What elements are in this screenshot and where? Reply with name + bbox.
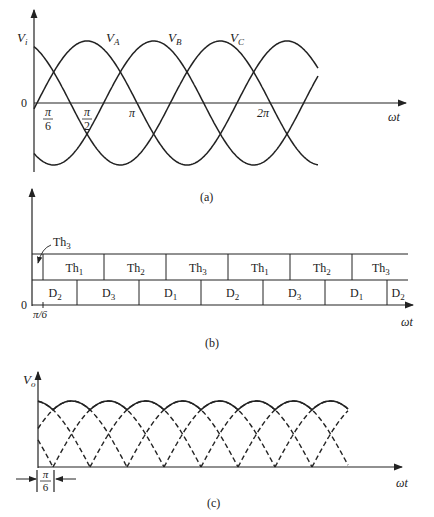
panel-a-x-label: ωt [388, 110, 400, 124]
tick-2pi: 2π [257, 106, 270, 120]
panel-a-origin-label: 0 [21, 96, 27, 110]
svg-text:6: 6 [45, 119, 51, 133]
phase-arc-dashed [312, 411, 348, 467]
phase-arc-dashed [38, 401, 90, 467]
diode-cell: D2 [49, 286, 62, 302]
caption-a: (a) [200, 190, 213, 204]
svg-text:6: 6 [43, 481, 49, 493]
panel-c-x-label: ωt [396, 476, 408, 490]
phase-arc-dashed [275, 401, 348, 467]
caption-c: (c) [207, 496, 220, 510]
label-vb: VB [168, 30, 182, 47]
panel-b-origin-label: 0 [21, 298, 27, 312]
pi-over-6-offset-annotation: π 6 [16, 468, 76, 493]
panel-a-y-label: Vi [17, 30, 28, 47]
panel-b-tick-pi-over-6: π/6 [33, 308, 48, 320]
phase-arc-dashed [38, 401, 127, 467]
diode-cell: D2 [392, 286, 405, 302]
label-va: VA [106, 30, 120, 47]
thyristor-cell: Th2 [127, 261, 145, 277]
svg-text:2: 2 [84, 119, 90, 133]
svg-text:Th3: Th3 [53, 235, 71, 251]
panel-c-output-voltage: Vo ωt π 6 (c) [16, 372, 408, 510]
tick-pi: π [129, 106, 136, 120]
diode-cell: D3 [288, 286, 302, 302]
thyristor-cell: Th3 [372, 261, 390, 277]
panel-c-y-label: Vo [23, 372, 36, 389]
svg-text:π: π [45, 105, 52, 119]
diode-cell: D3 [102, 286, 116, 302]
svg-text:π: π [43, 468, 49, 480]
panel-a-phase-voltages: Vi 0 ωt π 6 π 2 π 2π VA VB VC (a) [17, 10, 406, 204]
panel-c-waveforms [38, 401, 348, 467]
diode-cell: D1 [164, 286, 177, 302]
panel-b-x-label: ωt [401, 315, 413, 329]
thyristor-cell: Th1 [251, 261, 269, 277]
caption-b: (b) [205, 336, 219, 350]
panel-b-conduction-table: Th1Th2Th3Th1Th2Th3D2D3D1D2D3D1D2 0 π/6 ω… [21, 189, 413, 350]
thyristor-cell: Th3 [189, 261, 207, 277]
thyristor-cell: Th2 [313, 261, 331, 277]
label-vc: VC [230, 30, 245, 47]
tick-pi-over-6: π 6 [43, 105, 53, 133]
thyristor-cell: Th1 [66, 261, 84, 277]
output-envelope [38, 401, 348, 410]
three-phase-rectifier-figure: Vi 0 ωt π 6 π 2 π 2π VA VB VC (a) Th1Th2… [0, 0, 434, 517]
svg-text:π: π [84, 105, 91, 119]
diode-cell: D2 [226, 286, 239, 302]
diode-cell: D1 [350, 286, 363, 302]
phase-arc-dashed [38, 440, 53, 467]
